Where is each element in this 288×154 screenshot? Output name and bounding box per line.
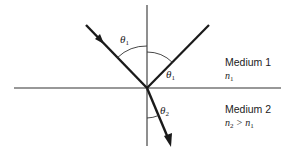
refraction-angle-arc xyxy=(147,116,159,119)
reflected-ray xyxy=(147,25,209,88)
medium-1-label: Medium 1 xyxy=(225,57,271,68)
medium-2-index-label: n2 > n1 xyxy=(225,118,254,130)
theta2-refraction-label: θ2 xyxy=(160,105,169,118)
refraction-diagram xyxy=(0,0,288,154)
theta1-reflection-label: θ1 xyxy=(166,69,175,82)
medium-2-label: Medium 2 xyxy=(225,104,271,115)
theta1-incidence-label: θ1 xyxy=(120,34,129,47)
medium-1-index-label: n1 xyxy=(225,71,234,83)
incidence-angle-arc xyxy=(118,46,148,58)
refracted-arrow-icon xyxy=(164,133,172,147)
reflection-angle-arc xyxy=(147,52,173,63)
incident-ray xyxy=(86,25,147,88)
